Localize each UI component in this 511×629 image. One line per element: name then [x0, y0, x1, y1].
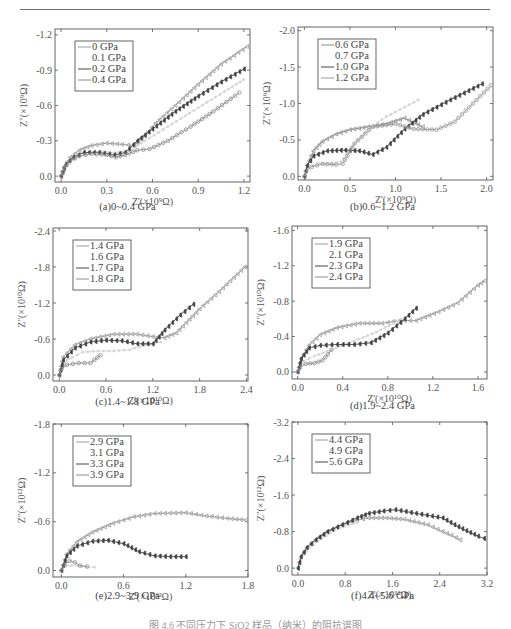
legend-entry: 1.9 GPa [329, 238, 363, 249]
legend-entry: 1.0 GPa [335, 61, 369, 72]
x-tick-label: 1.0 [389, 183, 402, 194]
y-tick-label: 0.0 [277, 366, 290, 377]
x-tick-label: 0.9 [192, 185, 205, 196]
series-line [298, 510, 484, 568]
y-tick-label: -2.4 [273, 453, 289, 464]
legend-box [318, 39, 376, 89]
y-axis-label: Z''(×10¹⁰Ω) [255, 279, 267, 325]
legend-entry: 2.3 GPa [329, 260, 363, 271]
plot-frame [292, 226, 487, 379]
legend-box [73, 240, 131, 290]
y-axis-label: Z''(×10¹⁰Ω) [16, 281, 28, 327]
y-tick-label: -0.4 [273, 331, 289, 342]
y-tick-label: -0.8 [273, 526, 289, 537]
y-tick-label: -0.8 [273, 296, 289, 307]
series-line [61, 540, 185, 570]
legend-entry: 4.4 GPa [329, 434, 363, 445]
x-tick-label: 0.8 [339, 578, 352, 589]
figure-caption: 图 4.6 不同压力下 SiO2 样品（纳米）的阻抗谱图 [0, 617, 511, 629]
legend-entry: 3.1 GPa [90, 447, 124, 458]
series-line [61, 513, 246, 571]
legend-entry: 0 GPa [92, 41, 118, 52]
series-line [59, 342, 160, 375]
x-tick-label: 0.6 [146, 185, 159, 196]
x-tick-label: 0.0 [298, 183, 311, 194]
panel-caption-e: (e)2.9~3.9 GPa [0, 590, 255, 601]
legend-entry: 1.8 GPa [90, 273, 124, 284]
legend-box [73, 436, 131, 486]
chart-panel-b: 0.00.51.01.52.00.0-0.5-1.0-1.5-2.0Z'(×10… [0, 0, 511, 629]
series-line [298, 350, 332, 372]
legend-entry: 1.7 GPa [90, 262, 124, 273]
legend-box [312, 238, 370, 288]
y-axis-label: Z''(×10¹²Ω) [16, 478, 28, 523]
x-tick-label: 0.0 [53, 384, 66, 395]
y-tick-label: -1.8 [34, 262, 50, 273]
y-tick-label: -0.3 [36, 135, 52, 146]
y-tick-label: 0.0 [283, 171, 296, 182]
x-tick-label: 1.8 [193, 384, 206, 395]
series-line [61, 69, 244, 176]
panel-caption-a: (a)0~0.4 GPa [0, 201, 255, 212]
x-tick-label: 0.0 [55, 185, 68, 196]
legend-entry: 5.6 GPa [329, 456, 363, 467]
y-tick-label: -1.6 [273, 225, 289, 236]
y-tick-label: -1.2 [273, 260, 289, 271]
y-tick-label: 0.0 [277, 563, 290, 574]
legend-entry: 0.4 GPa [92, 74, 126, 85]
x-tick-label: 0.6 [100, 384, 113, 395]
panel-caption-c: (c)1.4~1.8 GPa [0, 396, 255, 407]
y-tick-label: 0.0 [40, 171, 53, 182]
x-tick-label: 1.2 [427, 382, 440, 393]
series-line [298, 518, 461, 568]
series-line [304, 118, 422, 176]
series-line [61, 80, 244, 177]
x-tick-label: 2.4 [240, 384, 253, 395]
series-line [298, 317, 405, 372]
y-tick-label: -1.5 [279, 62, 295, 73]
plot-frame [53, 228, 248, 381]
x-tick-label: 0.4 [336, 382, 349, 393]
legend-entry: 0.7 GPa [335, 50, 369, 61]
legend-entry: 0.6 GPa [335, 39, 369, 50]
panel-caption-b: (b)0.6~1.2 GPa [255, 201, 510, 212]
y-tick-label: -3.2 [273, 417, 289, 428]
series-line [61, 561, 87, 571]
legend-entry: 0.2 GPa [92, 63, 126, 74]
x-tick-label: 0.8 [382, 382, 395, 393]
y-tick-label: -0.5 [279, 134, 295, 145]
x-tick-label: 1.2 [147, 384, 160, 395]
y-axis-label: Z''(×10⁹Ω) [18, 84, 30, 127]
legend-box [75, 41, 133, 91]
legend-entry: 1.4 GPa [90, 240, 124, 251]
legend-entry: 3.9 GPa [90, 469, 124, 480]
chart-panel-d: 0.00.40.81.21.60.0-0.4-0.8-1.2-1.6Z'(×10… [0, 0, 511, 629]
y-tick-label: -2.0 [279, 25, 295, 36]
x-tick-label: 0.0 [291, 382, 304, 393]
plot-frame [55, 29, 250, 182]
plot-frame [298, 27, 493, 180]
x-tick-label: 1.6 [386, 578, 399, 589]
x-tick-label: 1.2 [238, 185, 251, 196]
x-tick-label: 0.5 [344, 183, 357, 194]
chart-panel-a: 0.00.30.60.91.20.0-0.3-0.6-0.9-1.2Z'(×10… [0, 0, 511, 629]
plot-frame [53, 424, 248, 577]
y-tick-label: -1.0 [279, 98, 295, 109]
x-tick-label: 1.5 [435, 183, 448, 194]
series-line [59, 355, 100, 375]
legend-entry: 3.3 GPa [90, 458, 124, 469]
series-line [59, 267, 245, 375]
y-tick-label: -0.6 [36, 100, 52, 111]
series-line [61, 93, 239, 177]
series-line [304, 84, 482, 177]
legend-entry: 0.1 GPa [92, 52, 126, 63]
y-tick-label: -1.2 [36, 29, 52, 40]
x-tick-label: 1.6 [472, 382, 485, 393]
y-axis-label: Z''(×10¹²Ω) [255, 476, 267, 521]
series-line [61, 47, 247, 176]
y-tick-label: -1.8 [34, 419, 50, 430]
page-header-rule [20, 9, 490, 10]
chart-panel-c: 0.00.61.21.82.40.0-0.6-1.2-1.8-2.4Z'(×10… [0, 0, 511, 629]
x-tick-label: 0.3 [101, 185, 114, 196]
y-axis-label: Z''(×10⁹Ω) [261, 82, 273, 125]
